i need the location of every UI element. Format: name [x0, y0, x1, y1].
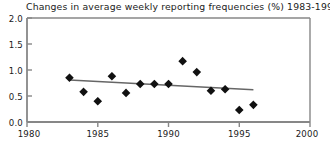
data-point-marker [250, 102, 256, 108]
x-tick-label: 2000 [296, 129, 319, 139]
data-point-marker [137, 81, 143, 87]
x-tick-label: 1990 [157, 129, 180, 139]
data-point-marker [180, 58, 186, 64]
scatter-plot: 2.0 1.5 1.0 0.5 0.0 1980 1985 1990 1995 … [0, 0, 330, 148]
data-point-marker [208, 88, 214, 94]
axis-frame [27, 18, 310, 122]
data-point-group [66, 58, 256, 113]
data-point-marker [165, 81, 171, 87]
data-point-marker [194, 69, 200, 75]
data-point-marker [151, 81, 157, 87]
data-point-marker [81, 89, 87, 95]
y-tick-label: 2.0 [9, 14, 23, 24]
x-tick-label: 1985 [86, 129, 109, 139]
y-tick-label: 1.0 [9, 66, 23, 76]
x-axis-tick-labels: 1980 1985 1990 1995 2000 [18, 129, 319, 139]
chart-figure: Changes in average weekly reporting freq… [0, 0, 330, 148]
y-axis-tick-labels: 2.0 1.5 1.0 0.5 0.0 [9, 14, 23, 128]
data-point-marker [236, 107, 242, 113]
data-point-marker [95, 98, 101, 104]
x-tick-label: 1980 [18, 129, 41, 139]
y-tick-label: 0.0 [9, 118, 23, 128]
data-point-marker [109, 73, 115, 79]
data-point-marker [123, 90, 129, 96]
x-tick-label: 1995 [228, 129, 251, 139]
data-point-marker [222, 86, 228, 92]
y-tick-label: 1.5 [9, 40, 23, 50]
y-tick-label: 0.5 [9, 92, 23, 102]
